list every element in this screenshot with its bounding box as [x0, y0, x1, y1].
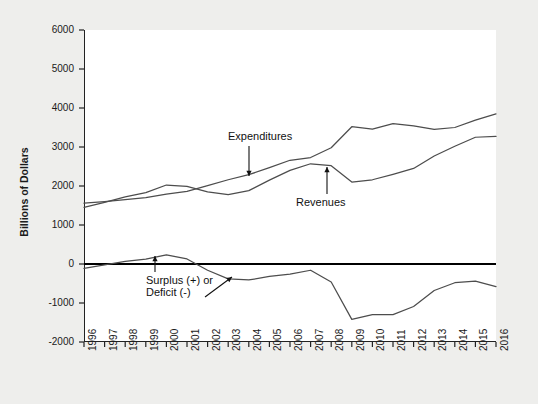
- annotation-surplus-deficit-line1: Surplus (+) or: [146, 274, 213, 286]
- x-tick-label: 2000: [170, 329, 180, 351]
- x-tick-label: 2010: [376, 329, 386, 351]
- x-tick-label: 2013: [438, 329, 448, 351]
- x-tick-label: 2005: [273, 329, 283, 351]
- y-tick-label: 3000: [30, 142, 74, 152]
- x-tick-label: 2009: [356, 329, 366, 351]
- x-tick-label: 1998: [129, 329, 139, 351]
- x-tick-label: 1999: [150, 329, 160, 351]
- x-tick-label: 2012: [418, 329, 428, 351]
- x-tick-label: 2008: [335, 329, 345, 351]
- y-tick-label: 6000: [30, 25, 74, 35]
- y-tick-label: 0: [30, 259, 74, 269]
- x-tick-label: 1997: [109, 329, 119, 351]
- annotation-surplus-deficit-line2: Deficit (-): [146, 286, 191, 298]
- y-tick-label: -2000: [30, 337, 74, 347]
- x-tick-label: 2011: [397, 329, 407, 351]
- x-tick-label: 2007: [315, 329, 325, 351]
- x-tick-label: 2003: [232, 329, 242, 351]
- y-tick-label: 1000: [30, 220, 74, 230]
- annotation-expenditures: Expenditures: [228, 130, 292, 142]
- annotation-revenues: Revenues: [296, 196, 346, 208]
- x-tick-label: 2006: [294, 329, 304, 351]
- x-tick-label: 2016: [500, 329, 510, 351]
- x-tick-label: 2004: [253, 329, 263, 351]
- x-tick-label: 2001: [191, 329, 201, 351]
- y-tick-label: -1000: [30, 298, 74, 308]
- y-tick-label: 4000: [30, 103, 74, 113]
- y-axis-title: Billions of Dollars: [18, 132, 30, 252]
- y-tick-label: 2000: [30, 181, 74, 191]
- x-tick-label: 2014: [459, 329, 469, 351]
- y-tick-label: 5000: [30, 64, 74, 74]
- chart-figure: -2000-10000100020003000400050006000 1996…: [0, 0, 538, 404]
- x-tick-label: 2015: [479, 329, 489, 351]
- x-tick-label: 1996: [88, 329, 98, 351]
- x-tick-label: 2002: [212, 329, 222, 351]
